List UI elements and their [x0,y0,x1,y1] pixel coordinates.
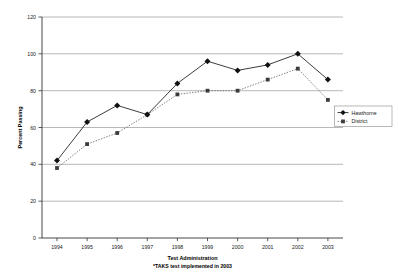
y-tick-label-40: 40 [30,161,36,167]
x-tick-label-2002: 2002 [292,244,304,250]
x-axis-title: Test Administration [167,255,217,261]
x-tick-label-1997: 1997 [142,244,154,250]
chart-container: 120 100 80 60 40 20 0 1994 1995 1996 1 [0,0,398,279]
data-point-district-2000 [236,89,240,93]
data-point-district-1996 [115,131,119,135]
legend-entry-hawthorne[interactable]: Hawthorne [338,110,377,116]
data-point-district-2001 [266,78,270,82]
chart-legend[interactable]: Hawthorne District [335,106,393,127]
y-tick-label-0: 0 [33,235,36,241]
legend-label-district: District [352,118,368,124]
x-tick-label-1999: 1999 [202,244,214,250]
chart-background [0,0,398,279]
x-tick-label-1998: 1998 [172,244,184,250]
data-point-district-1995 [85,142,89,146]
x-tick-label-1994: 1994 [51,244,63,250]
data-point-district-1998 [176,93,180,97]
x-tick-label-1996: 1996 [111,244,123,250]
y-axis-title: Percent Passing [17,107,23,149]
data-point-district-2003 [326,98,330,102]
data-point-district-2002 [296,67,300,71]
legend-marker-square-icon [341,120,345,124]
y-tick-label-120: 120 [27,14,36,20]
x-tick-label-1995: 1995 [81,244,93,250]
x-tick-label-2001: 2001 [262,244,274,250]
data-point-district-1994 [55,166,59,170]
y-tick-label-20: 20 [30,198,36,204]
y-tick-label-100: 100 [27,51,36,57]
x-tick-label-2000: 2000 [232,244,244,250]
data-point-district-1999 [206,89,210,93]
x-axis-note: *TAKS test implemented in 2003 [153,263,232,269]
y-tick-label-60: 60 [30,125,36,131]
y-tick-label-80: 80 [30,88,36,94]
x-tick-label-2003: 2003 [322,244,334,250]
legend-label-hawthorne: Hawthorne [352,110,377,116]
line-chart: 120 100 80 60 40 20 0 1994 1995 1996 1 [0,0,398,279]
